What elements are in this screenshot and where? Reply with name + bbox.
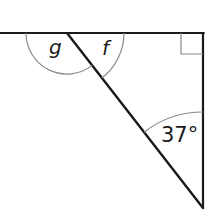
right-angle-marker-icon — [181, 33, 203, 54]
geometry-diagram: g f 37° — [0, 0, 216, 221]
diagonal-line — [67, 33, 203, 208]
angle-g-label: g — [49, 35, 62, 59]
angle-37-label: 37° — [161, 123, 198, 147]
angle-f-label: f — [102, 36, 112, 60]
